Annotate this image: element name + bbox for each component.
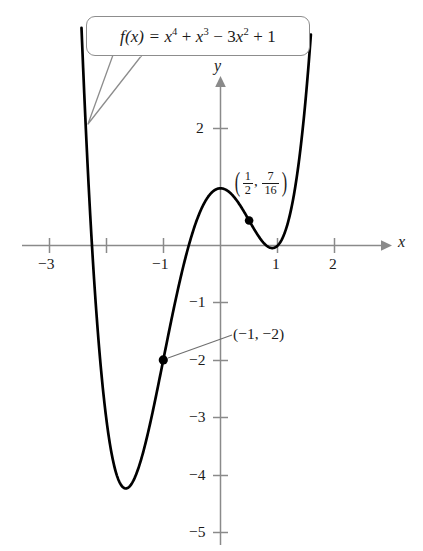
y-tick-label--2: −2 <box>189 351 206 369</box>
formula-term1-exponent: 4 <box>172 26 177 37</box>
formula-term1-base: x <box>164 27 172 46</box>
function-callout-box: f(x) = x4 + x3 − 3x2 + 1 <box>86 16 310 56</box>
fraction-denominator: 2 <box>243 183 253 197</box>
fraction-one-half: 12 <box>243 170 253 196</box>
fraction-denominator: 16 <box>262 183 278 197</box>
y-axis-label: y <box>214 57 221 75</box>
fraction-numerator: 7 <box>262 170 278 183</box>
formula-term2-exponent: 3 <box>203 26 208 37</box>
axes-group <box>22 76 392 545</box>
y-tick-label--4: −4 <box>189 466 206 484</box>
local-max-point-label: (12, 716) <box>233 170 288 196</box>
x-axis-arrowhead <box>381 240 392 251</box>
x-tick-label-2: 2 <box>329 255 337 273</box>
formula-op2: − <box>213 27 223 46</box>
formula-fx: f(x) = <box>120 27 160 46</box>
inflection-point-label: (−1, −2) <box>233 325 284 343</box>
graph-figure: f(x) = x4 + x3 − 3x2 + 1 (12, 716) (−1, … <box>0 0 423 551</box>
y-tick-label-2: 2 <box>196 119 204 137</box>
x-axis-label: x <box>398 233 405 251</box>
y-tick-label--3: −3 <box>189 408 206 426</box>
x-tick-label--3: −3 <box>38 255 55 273</box>
marked-point-minus1 <box>159 355 168 364</box>
fraction-seven-sixteenths: 716 <box>262 170 278 196</box>
x-tick-label-1: 1 <box>272 255 280 273</box>
formula-term3-coefficient: 3 <box>227 27 236 46</box>
paren-close: ) <box>281 174 286 193</box>
paren-open: ( <box>235 174 240 193</box>
x-tick-label--1: −1 <box>152 255 169 273</box>
y-tick-label--1: −1 <box>189 293 206 311</box>
formula-term3-base: x <box>236 27 244 46</box>
function-formula: f(x) = x4 + x3 − 3x2 + 1 <box>120 28 276 45</box>
formula-constant: 1 <box>267 27 276 46</box>
formula-op3: + <box>253 27 263 46</box>
callout-pointer <box>88 55 142 124</box>
formula-op1: + <box>182 27 192 46</box>
y-axis-arrowhead <box>215 76 226 87</box>
cartesian-plot <box>0 0 423 551</box>
formula-term3-exponent: 2 <box>244 26 249 37</box>
y-tick-label--5: −5 <box>189 523 206 541</box>
marked-point-half <box>245 216 254 225</box>
fraction-numerator: 1 <box>243 170 253 183</box>
label-comma: , <box>254 173 258 189</box>
